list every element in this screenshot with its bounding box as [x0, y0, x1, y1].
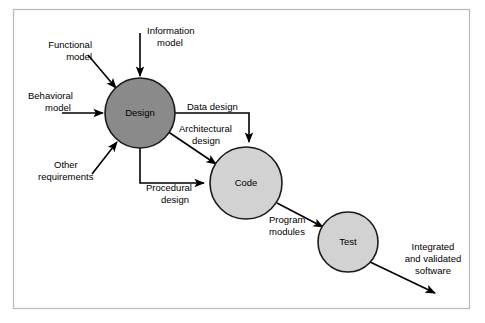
label-program-modules-line2: modules: [269, 226, 305, 237]
label-data-design-line1: Data design: [187, 101, 238, 112]
label-information-model-line1: Information: [147, 25, 195, 36]
label-behavioral-model-line2: model: [45, 102, 71, 113]
label-integrated-software-line2: and validated: [405, 253, 462, 264]
node-design-label: Design: [125, 107, 155, 118]
label-architectural-design-line1: Architectural: [179, 123, 232, 134]
label-information-model-line2: model: [157, 37, 183, 48]
label-procedural-design-line1: Procedural: [146, 182, 192, 193]
label-other-requirements-line2: requirements: [38, 171, 94, 182]
design-process-diagram: Design Code Test Functional model Inform…: [0, 0, 485, 323]
node-code-label: Code: [235, 177, 258, 188]
node-test-label: Test: [339, 236, 357, 247]
label-functional-model-line2: model: [66, 51, 92, 62]
label-other-requirements-line1: Other: [54, 159, 78, 170]
label-architectural-design-line2: design: [192, 135, 220, 146]
diagram-canvas: Design Code Test Functional model Inform…: [0, 0, 485, 323]
label-behavioral-model-line1: Behavioral: [28, 90, 73, 101]
label-integrated-software-line3: software: [415, 265, 451, 276]
label-program-modules-line1: Program: [269, 214, 306, 225]
label-integrated-software-line1: Integrated: [412, 241, 455, 252]
label-functional-model-line1: Functional: [48, 39, 92, 50]
label-procedural-design-line2: design: [161, 194, 189, 205]
